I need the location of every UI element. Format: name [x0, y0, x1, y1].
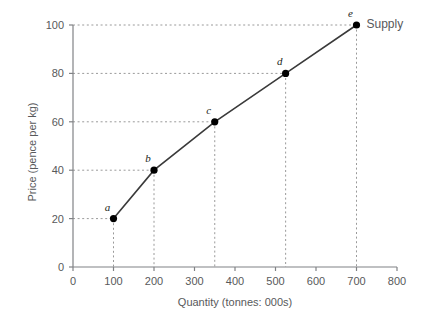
x-axis-title: Quantity (tonnes: 000s): [73, 296, 397, 308]
chart-plot-area: [0, 0, 427, 322]
data-point-label-c: c: [206, 104, 211, 116]
supply-curve-chart: 020406080100 0100200300400500600700800 a…: [0, 0, 427, 322]
x-tick-label-100: 100: [104, 275, 122, 287]
data-point-b[interactable]: [150, 167, 157, 174]
y-axis-title: Price (pence per kg): [26, 72, 38, 232]
x-tick-label-400: 400: [226, 275, 244, 287]
supply-series-label: Supply: [367, 17, 404, 31]
y-tick-label-100: 100: [22, 19, 64, 31]
y-tick-label-0: 0: [22, 261, 64, 273]
data-point-label-e: e: [348, 7, 353, 19]
x-tick-label-200: 200: [145, 275, 163, 287]
data-point-c[interactable]: [211, 118, 218, 125]
x-tick-label-800: 800: [388, 275, 406, 287]
gridlines-group: [73, 25, 357, 267]
supply-line: [114, 25, 357, 219]
x-tick-label-0: 0: [70, 275, 76, 287]
x-tick-label-700: 700: [347, 275, 365, 287]
data-point-e[interactable]: [353, 21, 360, 28]
x-tick-label-300: 300: [185, 275, 203, 287]
x-tick-label-600: 600: [307, 275, 325, 287]
data-point-label-d: d: [277, 55, 283, 67]
data-point-a[interactable]: [110, 215, 117, 222]
data-point-label-a: a: [105, 201, 111, 213]
axes-group: [69, 25, 397, 271]
x-tick-label-500: 500: [266, 275, 284, 287]
data-point-d[interactable]: [282, 70, 289, 77]
data-point-label-b: b: [145, 152, 151, 164]
